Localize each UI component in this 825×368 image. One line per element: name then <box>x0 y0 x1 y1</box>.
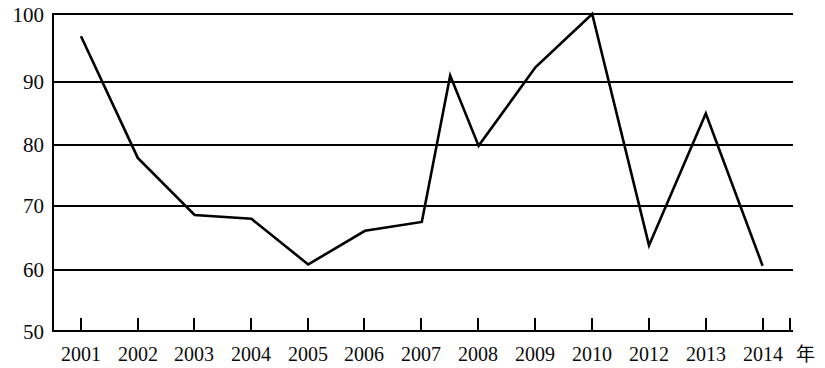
data-series-line <box>81 14 763 266</box>
plot-area <box>0 0 825 368</box>
line-chart: 100 90 80 70 60 50 2001 2002 2003 2004 2… <box>0 0 825 368</box>
gridlines <box>52 14 793 270</box>
x-axis-ticks <box>81 318 790 331</box>
axis-lines <box>52 13 793 332</box>
